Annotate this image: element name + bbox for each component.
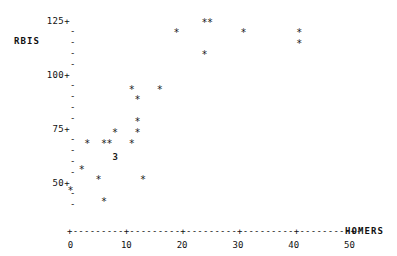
y-axis-minor-tick: - xyxy=(70,102,80,112)
y-axis-minor-tick: - xyxy=(70,37,80,47)
data-point: * xyxy=(78,165,86,175)
overplot-count-label: 3 xyxy=(111,152,119,162)
y-axis-minor-tick: - xyxy=(70,80,80,90)
y-axis-minor-tick: - xyxy=(70,199,80,209)
data-point: * xyxy=(206,18,214,28)
data-point: * xyxy=(100,197,108,207)
data-point: * xyxy=(133,95,141,105)
y-axis-minor-tick: - xyxy=(70,145,80,155)
data-point: * xyxy=(111,128,119,138)
ascii-scatter-plot-screen: THE TOP RBIS AND HOMERS RBIS HOMERS 125+… xyxy=(0,0,397,256)
data-point: * xyxy=(200,50,208,60)
data-point: * xyxy=(239,28,247,38)
data-point: * xyxy=(173,28,181,38)
data-point: * xyxy=(139,175,147,185)
data-point: * xyxy=(128,139,136,149)
data-point: * xyxy=(106,139,114,149)
data-point: * xyxy=(83,139,91,149)
data-point: * xyxy=(133,117,141,127)
y-axis-tick-label-125: 125+ xyxy=(36,16,70,26)
data-point: * xyxy=(94,175,102,185)
x-axis-tick-label-10: 10 xyxy=(116,240,136,250)
y-axis-minor-tick: - xyxy=(70,134,80,144)
data-point: * xyxy=(67,186,75,196)
y-axis-minor-tick: - xyxy=(70,59,80,69)
y-axis-minor-tick: - xyxy=(70,48,80,58)
x-axis-tick-label-40: 40 xyxy=(284,240,304,250)
y-axis-minor-tick: - xyxy=(70,113,80,123)
x-axis-tick-label-0: 0 xyxy=(61,240,81,250)
data-point: * xyxy=(133,128,141,138)
y-axis-tick-label-75: 75+ xyxy=(36,124,70,134)
x-axis-line: +---------+---------+---------+---------… xyxy=(67,226,362,236)
y-axis-minor-tick: - xyxy=(70,26,80,36)
y-axis-minor-tick: - xyxy=(70,91,80,101)
y-axis-title: RBIS xyxy=(14,36,40,46)
data-point: * xyxy=(156,85,164,95)
data-point: * xyxy=(128,85,136,95)
data-point: * xyxy=(295,28,303,38)
x-axis-tick-label-20: 20 xyxy=(172,240,192,250)
y-axis-tick-label-100: 100+ xyxy=(36,70,70,80)
y-axis-tick-label-50: 50+ xyxy=(36,178,70,188)
x-axis-tick-label-50: 50 xyxy=(340,240,360,250)
x-axis-tick-label-30: 30 xyxy=(228,240,248,250)
clipped-header-text: THE TOP RBIS AND HOMERS xyxy=(0,0,397,5)
data-point: * xyxy=(295,39,303,49)
